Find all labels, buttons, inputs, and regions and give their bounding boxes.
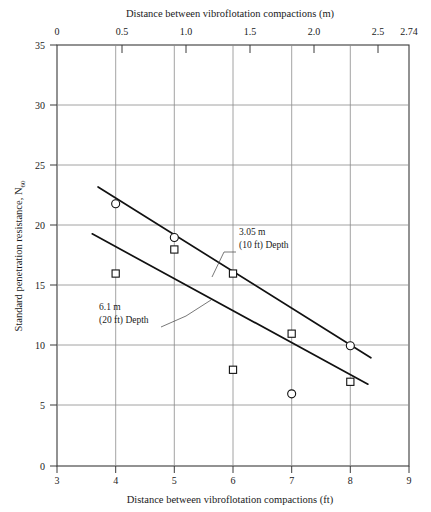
x-tick-label: 6 (231, 475, 236, 486)
top-tick-label: 2.5 (372, 26, 385, 37)
x-tick-label: 7 (289, 475, 294, 486)
chart-background (0, 0, 431, 512)
data-point-circle (170, 233, 178, 241)
top-tick-label: 2.74 (400, 26, 418, 37)
data-point-square (347, 378, 354, 385)
y-tick-label: 5 (40, 400, 45, 411)
data-point-square (171, 246, 178, 253)
top-tick-label: 0.5 (116, 26, 129, 37)
data-point-circle (346, 342, 354, 350)
x-tick-label: 3 (55, 475, 60, 486)
spt-vibroflotation-chart: Distance between vibroflotation compacti… (0, 0, 431, 512)
y-tick-label: 0 (40, 461, 45, 472)
x-tick-label: 5 (172, 475, 177, 486)
annot-depth-20ft-line1: 6.1 m (99, 302, 121, 312)
data-point-square (288, 330, 295, 337)
data-point-circle (288, 390, 296, 398)
y-axis-title-text: Standard penetration resistance, N (13, 187, 24, 331)
top-tick-label: 1.5 (244, 26, 257, 37)
y-tick-label: 15 (35, 280, 45, 291)
bottom-axis-title: Distance between vibroflotation compacti… (127, 494, 334, 506)
data-point-circle (112, 200, 120, 208)
x-tick-label: 9 (407, 475, 412, 486)
y-tick-label: 30 (35, 100, 45, 111)
top-tick-label: 2.0 (308, 26, 321, 37)
annot-depth-10ft-line2: (10 ft) Depth (239, 240, 289, 251)
x-tick-label: 4 (113, 475, 118, 486)
data-point-square (112, 270, 119, 277)
y-tick-label: 35 (35, 40, 45, 51)
y-tick-label: 25 (35, 160, 45, 171)
y-axis-title-subscript: 60 (19, 180, 27, 188)
annot-depth-20ft-line2: (20 ft) Depth (99, 315, 149, 326)
data-point-square (229, 270, 236, 277)
top-axis-title: Distance between vibroflotation compacti… (126, 8, 335, 20)
data-point-square (229, 366, 236, 373)
y-tick-label: 10 (35, 340, 45, 351)
top-tick-label: 0 (55, 26, 60, 37)
x-tick-label: 8 (348, 475, 353, 486)
annot-depth-10ft-line1: 3.05 m (239, 227, 266, 237)
y-tick-label: 20 (35, 220, 45, 231)
top-tick-label: 1.0 (180, 26, 193, 37)
